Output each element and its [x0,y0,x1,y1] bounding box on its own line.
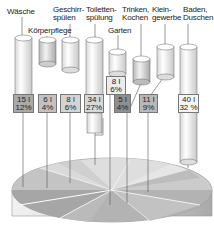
label-kleingewerbe: Klein-gewerbe [152,6,181,22]
label-trinken: Trinken,Kochen [122,6,149,22]
pie-chart [12,158,212,222]
value-box-geschirr: 8 l6% [60,94,81,113]
label-geschirr: Geschirr-spülen [53,6,84,22]
value-box-koerperpflege: 6 l4% [38,94,57,113]
label-waesche: Wäsche [7,8,35,16]
label-toilette: Toiletten-spülung [86,6,116,22]
value-box-trinken: 5 l4% [114,94,131,113]
value-box-kleingewerbe: 11 l9% [139,94,158,113]
value-box-garten: 8 l6% [106,76,126,95]
label-koerperpflege: Körperpflege [28,27,71,35]
value-box-waesche: 15 l12% [13,94,34,113]
label-baden: Baden,Duschen [183,6,213,22]
label-garten: Garten [108,27,131,35]
value-box-baden: 40 l32 % [178,94,199,113]
value-box-toilette: 34 l27% [84,94,104,113]
